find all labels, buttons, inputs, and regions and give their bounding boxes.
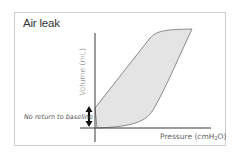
x-axis-label: Pressure (cmH2O): [160, 132, 226, 141]
pressure-volume-loop: [95, 29, 192, 128]
annotation-no-return-to-baseline: No return to baseline: [24, 113, 93, 121]
x-axis-label-end: O): [218, 132, 227, 141]
pressure-volume-loop-plot: [0, 0, 238, 153]
y-axis-label: Volume (mL): [78, 48, 87, 96]
x-axis-label-main: Pressure (cmH: [160, 132, 214, 141]
